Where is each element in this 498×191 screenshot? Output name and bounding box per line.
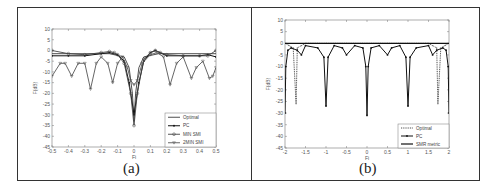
y-tick-label: -45 bbox=[276, 145, 283, 151]
x-tick-label: 0.2 bbox=[163, 148, 170, 154]
x-tick-label: -1 bbox=[324, 149, 329, 155]
figure-canvas: -0.5-0.4-0.3-0.2-0.100.10.20.30.40.51050… bbox=[0, 0, 498, 191]
x-tick-label: 0.1 bbox=[147, 148, 154, 154]
y-tick-label: -20 bbox=[43, 90, 50, 96]
y-tick-label: -5 bbox=[279, 52, 284, 58]
legend-entry: PC bbox=[183, 123, 190, 128]
legend: OptimalPCMIN SMI2MIN SMI bbox=[165, 113, 216, 147]
y-tick-label: -25 bbox=[276, 98, 283, 104]
x-tick-label: 0.5 bbox=[384, 149, 391, 155]
chart-a: -0.5-0.4-0.3-0.2-0.100.10.20.30.40.51050… bbox=[32, 26, 220, 160]
x-tick-label: -0.3 bbox=[80, 148, 89, 154]
y-tick-label: -30 bbox=[43, 112, 50, 118]
x-tick-label: -0.4 bbox=[64, 148, 73, 154]
legend-entry: Optimal bbox=[183, 115, 199, 120]
caption-a: (a) bbox=[123, 160, 140, 177]
y-tick-label: 0 bbox=[280, 40, 283, 46]
legend-entry: MIN SMI bbox=[183, 132, 201, 137]
y-tick-label: 10 bbox=[44, 26, 50, 32]
y-tick-label: -30 bbox=[276, 110, 283, 116]
y-tick-label: -10 bbox=[43, 69, 50, 75]
chart-b: -2-1.5-1-0.500.511.521050-5-10-15-20-25-… bbox=[265, 17, 451, 161]
x-tick-label: -2 bbox=[283, 149, 288, 155]
y-axis-label: F(dB) bbox=[265, 77, 271, 90]
y-tick-label: -20 bbox=[276, 87, 283, 93]
x-tick-label: -0.5 bbox=[342, 149, 351, 155]
y-axis-label: F(dB) bbox=[32, 81, 38, 94]
y-tick-label: 5 bbox=[47, 37, 50, 43]
y-tick-label: -35 bbox=[43, 122, 50, 128]
y-tick-label: -40 bbox=[43, 133, 50, 139]
legend: OptimalPCSMR metric bbox=[398, 124, 449, 148]
y-tick-label: -10 bbox=[276, 63, 283, 69]
caption-b: (b) bbox=[359, 160, 377, 177]
y-tick-label: -5 bbox=[46, 58, 51, 64]
x-tick-label: -0.2 bbox=[97, 148, 106, 154]
y-tick-label: 10 bbox=[277, 17, 283, 23]
x-tick-label: 1.5 bbox=[425, 149, 432, 155]
x-tick-label: -1.5 bbox=[301, 149, 310, 155]
legend-entry: SMR metric bbox=[416, 142, 441, 147]
y-tick-label: -35 bbox=[276, 122, 283, 128]
legend-entry: 2MIN SMI bbox=[183, 140, 203, 145]
y-tick-label: 0 bbox=[47, 47, 50, 53]
x-tick-label: 1 bbox=[407, 149, 410, 155]
y-tick-label: 5 bbox=[280, 28, 283, 34]
legend-entry: Optimal bbox=[416, 126, 432, 131]
x-tick-label: -0.1 bbox=[113, 148, 122, 154]
legend-entry: PC bbox=[416, 134, 423, 139]
x-tick-label: 0.3 bbox=[180, 148, 187, 154]
x-tick-label: 0.5 bbox=[213, 148, 220, 154]
y-tick-label: -40 bbox=[276, 133, 283, 139]
y-tick-label: -45 bbox=[43, 144, 50, 150]
y-tick-label: -15 bbox=[276, 75, 283, 81]
x-tick-label: 2 bbox=[448, 149, 451, 155]
y-tick-label: -25 bbox=[43, 101, 50, 107]
y-tick-label: -15 bbox=[43, 79, 50, 85]
x-tick-label: 0.4 bbox=[196, 148, 203, 154]
